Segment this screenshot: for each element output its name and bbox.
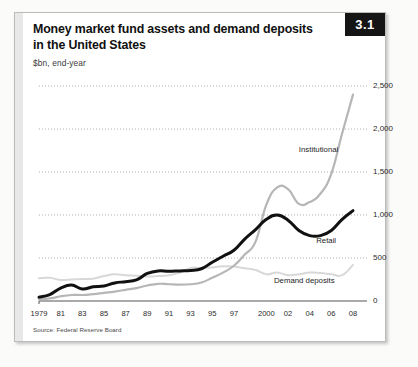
x-axis-tick-label: 2000 [258, 309, 275, 318]
x-axis-tick-label: 06 [327, 309, 335, 318]
x-axis-tick-label: 89 [143, 309, 151, 318]
y-axis-tick-label: 500 [373, 253, 386, 262]
y-axis-tick-label: 1,500 [373, 167, 393, 176]
x-axis-tick-label: 85 [100, 309, 108, 318]
x-axis-tick-label: 91 [165, 309, 173, 318]
source-note: Source: Federal Reserve Board [33, 326, 121, 333]
y-axis-tick-label: 2,500 [373, 81, 393, 90]
x-axis-tick-label: 04 [305, 309, 313, 318]
x-axis-tick-label: 02 [284, 309, 292, 318]
x-axis-tick-label: 87 [121, 309, 129, 318]
chart-canvas [15, 13, 387, 343]
figure-root: 3.1 Money market fund assets and demand … [0, 0, 418, 367]
x-axis-tick-label: 08 [349, 309, 357, 318]
y-axis-tick-label: 0 [373, 296, 377, 305]
series-label-demand-deposits: Demand deposits [274, 276, 335, 285]
series-label-retail: Retail [316, 236, 336, 245]
y-axis-tick-label: 2,000 [373, 124, 393, 133]
x-axis-tick-label: 93 [186, 309, 194, 318]
x-axis-tick-label: 97 [230, 309, 238, 318]
plot-area: 05001,0001,5002,0002,500 197981838587899… [15, 13, 387, 343]
x-axis-tick-label: 81 [56, 309, 64, 318]
x-axis-tick-label: 1979 [31, 309, 48, 318]
series-label-institutional: Institutional [299, 145, 338, 154]
x-axis-tick-label: 95 [208, 309, 216, 318]
figure-frame: 3.1 Money market fund assets and demand … [14, 12, 386, 342]
x-axis-tick-label: 83 [78, 309, 86, 318]
y-axis-tick-label: 1,000 [373, 210, 393, 219]
